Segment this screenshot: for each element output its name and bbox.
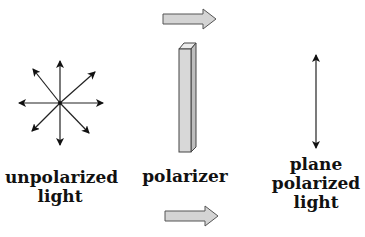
label-line: plane xyxy=(270,155,362,174)
unpolarized-light-label: unpolarized light xyxy=(5,168,115,206)
bottom-direction-arrow-icon xyxy=(165,206,218,226)
diagram-canvas: unpolarized light polarizer plane polari… xyxy=(0,0,365,237)
label-line: light xyxy=(270,193,362,212)
unpolarized-light-icon xyxy=(19,61,103,145)
label-line: unpolarized xyxy=(5,168,115,187)
polarizer-icon xyxy=(179,43,196,152)
label-line: polarized xyxy=(270,174,362,193)
plane-polarized-light-label: plane polarized light xyxy=(270,155,362,212)
label-line: polarizer xyxy=(140,167,230,186)
label-line: light xyxy=(5,187,115,206)
polarizer-label: polarizer xyxy=(140,167,230,186)
top-direction-arrow-icon xyxy=(163,9,216,29)
